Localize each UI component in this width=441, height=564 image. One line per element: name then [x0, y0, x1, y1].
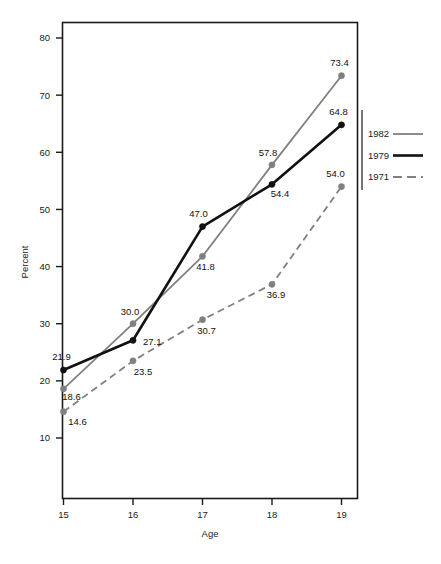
- x-tick-label: 16: [128, 509, 139, 520]
- data-point-1979-18: [269, 181, 275, 187]
- line-chart: 1020304050607080 1516171819 18.630.041.8…: [0, 0, 441, 564]
- point-label-1971-15: 14.6: [68, 416, 87, 427]
- y-tick-label: 20: [39, 375, 50, 386]
- data-point-1982-18: [269, 162, 275, 168]
- point-label-1971-18: 36.9: [267, 289, 286, 300]
- y-tick-label: 50: [39, 204, 50, 215]
- x-tick-label: 18: [267, 509, 278, 520]
- y-tick-label: 10: [39, 432, 50, 443]
- point-label-1971-17: 30.7: [197, 325, 216, 336]
- point-label-1982-19: 73.4: [330, 57, 349, 68]
- point-label-1971-16: 23.5: [134, 366, 153, 377]
- point-label-1971-19: 54.0: [326, 168, 345, 179]
- y-tick-label: 80: [39, 32, 50, 43]
- legend-label-1979[interactable]: 1979: [368, 150, 389, 161]
- y-tick-label: 60: [39, 147, 50, 158]
- legend-label-1971[interactable]: 1971: [368, 171, 389, 182]
- y-axis-title: Percent: [19, 245, 30, 278]
- point-label-1982-16: 30.0: [121, 306, 140, 317]
- y-tick-label: 40: [39, 261, 50, 272]
- point-label-1982-17: 41.8: [196, 261, 215, 272]
- point-label-1979-16: 27.1: [143, 336, 162, 347]
- point-label-1979-19: 64.8: [329, 106, 348, 117]
- y-tick-label: 70: [39, 90, 50, 101]
- point-label-1982-18: 57.8: [259, 147, 278, 158]
- chart-canvas: 1020304050607080 1516171819 18.630.041.8…: [0, 0, 441, 564]
- data-point-1979-15: [60, 367, 66, 373]
- chart-background: [0, 0, 441, 564]
- point-label-1979-17: 47.0: [189, 208, 208, 219]
- data-point-1971-18: [269, 281, 275, 287]
- data-point-1971-19: [338, 183, 344, 189]
- x-tick-label: 15: [58, 509, 69, 520]
- point-label-1982-15: 18.6: [62, 391, 81, 402]
- data-point-1982-17: [199, 253, 205, 259]
- x-tick-label: 19: [336, 509, 347, 520]
- data-point-1982-16: [130, 321, 136, 327]
- data-point-1979-19: [338, 122, 344, 128]
- x-tick-label: 17: [197, 509, 208, 520]
- point-label-1979-15: 21.9: [52, 351, 71, 362]
- x-axis-title: Age: [202, 528, 219, 539]
- y-tick-label: 30: [39, 318, 50, 329]
- data-point-1982-19: [338, 73, 344, 79]
- legend-label-1982[interactable]: 1982: [368, 128, 389, 139]
- data-point-1971-17: [199, 317, 205, 323]
- point-label-1979-18: 54.4: [271, 188, 290, 199]
- data-point-1971-15: [60, 409, 66, 415]
- data-point-1979-16: [130, 337, 136, 343]
- data-point-1971-16: [130, 358, 136, 364]
- data-point-1979-17: [199, 223, 205, 229]
